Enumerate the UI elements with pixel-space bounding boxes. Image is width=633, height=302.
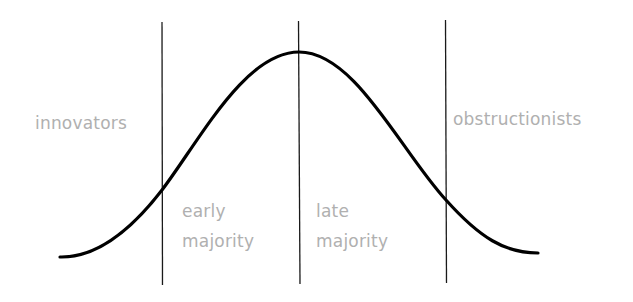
bell-curve-diagram: [0, 0, 633, 302]
label-early-majority-line2: majority: [182, 228, 254, 255]
divider-line-1: [162, 22, 163, 285]
label-early-majority-line1: early: [182, 198, 226, 225]
divider-line-3: [446, 20, 447, 283]
divider-line-2: [299, 21, 301, 284]
label-late-majority-line2: majority: [316, 228, 388, 255]
label-obstructionists: obstructionists: [453, 106, 582, 133]
label-late-majority-line1: late: [316, 198, 349, 225]
label-innovators: innovators: [35, 110, 127, 137]
